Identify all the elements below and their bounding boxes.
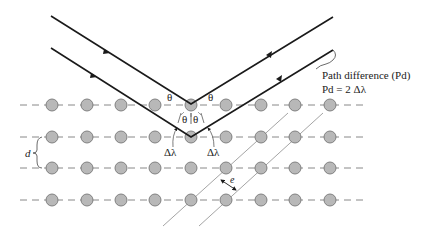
atom [115, 99, 127, 111]
atom [324, 162, 336, 174]
atom [115, 131, 127, 143]
atom [81, 131, 93, 143]
atom [255, 131, 267, 143]
atom [115, 194, 127, 206]
atom [46, 194, 58, 206]
atom [81, 194, 93, 206]
atom [149, 131, 161, 143]
e-label: e [230, 174, 235, 185]
atom [185, 194, 197, 206]
arrow-icon [276, 75, 282, 82]
delta-lambda-left-label: Δλ [164, 146, 177, 158]
atom [324, 194, 336, 206]
atom [289, 194, 301, 206]
atom [255, 99, 267, 111]
d-label: d [25, 147, 31, 159]
theta-pair: θ θ [178, 113, 204, 125]
theta-inner-right: θ [193, 113, 198, 125]
atom [289, 162, 301, 174]
atom [220, 194, 232, 206]
atom [289, 131, 301, 143]
atom [185, 162, 197, 174]
atom [46, 131, 58, 143]
atom [324, 99, 336, 111]
atom [81, 99, 93, 111]
theta-inner-left: θ [182, 113, 187, 125]
atom [46, 162, 58, 174]
atom [149, 99, 161, 111]
atom [220, 131, 232, 143]
atom [255, 162, 267, 174]
upper-ray [51, 16, 333, 104]
theta-left-label: θ [167, 91, 172, 103]
delta-lambda-right: Δλ [207, 128, 220, 158]
path-difference-title: Path difference (Pd) [322, 69, 411, 82]
d-brace [33, 137, 42, 168]
atom [46, 99, 58, 111]
atom [220, 162, 232, 174]
atom [324, 131, 336, 143]
atom [289, 99, 301, 111]
atom [255, 194, 267, 206]
atom [115, 162, 127, 174]
atom [220, 99, 232, 111]
delta-lambda-right-label: Δλ [207, 146, 220, 158]
lower-ray [51, 48, 333, 137]
atom [81, 162, 93, 174]
diagram-canvas: θ θ θ θ Δλ Δλ Path difference (Pd) Pd = … [0, 0, 426, 232]
atom [149, 194, 161, 206]
path-difference-equation: Pd = 2 Δλ [322, 83, 367, 95]
bragg-diagram: θ θ θ θ Δλ Δλ Path difference (Pd) Pd = … [0, 0, 426, 232]
delta-lambda-left: Δλ [164, 128, 177, 158]
theta-right-label: θ [208, 91, 213, 103]
atom [149, 162, 161, 174]
